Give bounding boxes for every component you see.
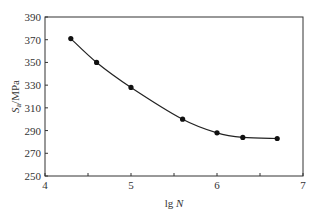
data-point [214, 130, 219, 135]
y-tick-label: 290 [25, 125, 42, 137]
y-tick-label: 370 [25, 34, 42, 46]
data-point [68, 36, 73, 41]
plot-frame [45, 17, 303, 176]
x-tick-label: 5 [128, 179, 134, 191]
x-tick-label: 4 [42, 179, 48, 191]
y-tick-label: 250 [25, 170, 42, 182]
y-tick-label: 330 [25, 79, 42, 91]
y-axis-label: Sa/MPa [9, 80, 23, 113]
x-axis-label: lg N [165, 197, 184, 209]
y-tick-label: 350 [25, 56, 42, 68]
data-point [180, 117, 185, 122]
x-tick-label: 7 [300, 179, 306, 191]
data-point [240, 135, 245, 140]
y-tick-label: 390 [25, 11, 42, 23]
data-point [275, 136, 280, 141]
fit-curve [71, 39, 277, 139]
y-tick-label: 270 [25, 147, 42, 159]
chart: 2502702903103303503703904567lg NSa/MPa [0, 0, 315, 214]
x-tick-label: 6 [214, 179, 220, 191]
data-point [128, 85, 133, 90]
data-point [94, 60, 99, 65]
y-tick-label: 310 [25, 102, 42, 114]
